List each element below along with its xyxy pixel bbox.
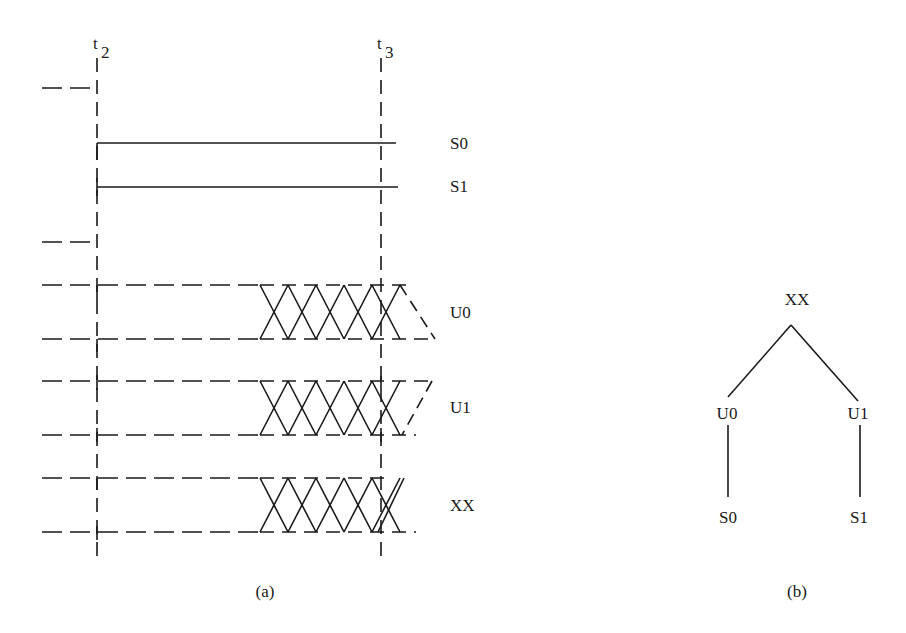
- tree-node-s1: S1: [850, 508, 868, 527]
- signal-label-s1: S1: [450, 177, 468, 196]
- panel-b-caption: (b): [787, 582, 807, 601]
- svg-text:3: 3: [385, 43, 394, 62]
- signal-label-xx: XX: [450, 496, 475, 515]
- tree-node-s0: S0: [719, 508, 737, 527]
- signal-s0-trace: [97, 143, 396, 160]
- svg-text:t: t: [377, 34, 382, 53]
- signal-u0-trace: [42, 285, 435, 352]
- tree-node-u0: U0: [717, 404, 738, 423]
- signal-xx-trace: [42, 478, 416, 540]
- tree-node-u1: U1: [848, 404, 869, 423]
- panel-a: t 2 t 3: [42, 34, 475, 601]
- tree-edge-xx-u1: [791, 325, 858, 401]
- svg-text:2: 2: [101, 43, 110, 62]
- svg-text:t: t: [93, 34, 98, 53]
- tree-edge-xx-u0: [728, 325, 791, 397]
- signal-label-s0: S0: [450, 134, 468, 153]
- signal-s1-trace: [97, 178, 398, 196]
- time-marker-t2-label: t 2: [93, 34, 110, 62]
- panel-b-tree: XX U0 U1 S0 S1 (b): [717, 290, 869, 601]
- tree-node-xx: XX: [785, 290, 810, 309]
- signal-u1-trace: [42, 375, 436, 442]
- signal-label-u0: U0: [450, 303, 471, 322]
- time-marker-t3-label: t 3: [377, 34, 394, 62]
- signal-label-u1: U1: [450, 398, 471, 417]
- panel-a-caption: (a): [256, 582, 275, 601]
- timing-diagram-figure: t 2 t 3: [0, 0, 906, 633]
